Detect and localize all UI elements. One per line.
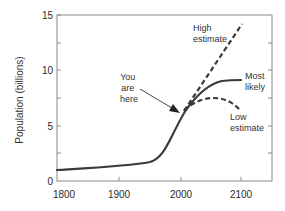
y-tick-5: 5 xyxy=(47,121,53,132)
most-likely-line xyxy=(57,80,241,170)
y-axis-right-ticks xyxy=(268,43,272,153)
plot-frame xyxy=(57,15,272,181)
y-axis-label: Population (billions) xyxy=(14,56,25,143)
x-tick-1900: 1900 xyxy=(108,189,131,200)
y-tick-0: 0 xyxy=(47,176,53,187)
population-chart: 15 10 5 0 1800 1900 2000 2100 Population… xyxy=(0,0,285,211)
low-estimate-label: Low estimate xyxy=(230,112,264,133)
y-tick-10: 10 xyxy=(42,65,54,76)
x-axis-ticks xyxy=(119,177,241,181)
you-are-here-arrow xyxy=(140,89,180,113)
x-tick-1800: 1800 xyxy=(53,189,76,200)
x-tick-2100: 2100 xyxy=(230,189,253,200)
you-are-here-label: You are here xyxy=(120,72,138,104)
most-likely-label: Most likely xyxy=(245,71,267,92)
y-tick-15: 15 xyxy=(42,10,54,21)
x-tick-2000: 2000 xyxy=(170,189,193,200)
high-estimate-label: High estimate xyxy=(193,23,227,44)
y-axis-left-ticks xyxy=(57,15,61,153)
